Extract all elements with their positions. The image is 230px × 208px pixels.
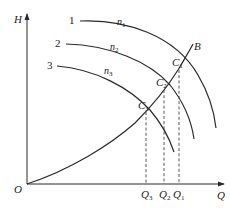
speed-label-n1: n1: [117, 16, 126, 29]
origin-label: O: [14, 183, 22, 195]
curve-number-3: 3: [47, 59, 53, 71]
curve-number-2: 2: [55, 37, 61, 49]
operating-point-c2: C2: [156, 76, 167, 90]
curve-number-1: 1: [69, 14, 75, 26]
operating-point-c1: C1: [172, 56, 183, 70]
operating-point-c3: C3: [138, 99, 149, 113]
speed-label-n3: n3: [104, 65, 113, 78]
diagram-canvas: H Q O 1 2 3 n1 n2 n3 B C1 C2 C3 Q3 Q2 Q1: [0, 0, 230, 208]
q-axis-label: Q: [217, 189, 225, 201]
system-curve-label: B: [194, 40, 201, 52]
speed-label-n2: n2: [110, 41, 119, 54]
pump-speed-diagram: H Q O 1 2 3 n1 n2 n3 B C1 C2 C3 Q3 Q2 Q1: [0, 0, 230, 208]
flow-label-q2: Q2: [159, 188, 171, 202]
h-axis-label: H: [13, 13, 23, 25]
flow-label-q1: Q1: [173, 188, 185, 202]
flow-label-q3: Q3: [141, 188, 153, 202]
